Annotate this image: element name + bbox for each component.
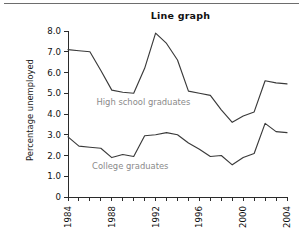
line-graph-figure: Line graph Percentage unemployed 01.02.0…: [0, 0, 303, 243]
x-tick-label: 2004: [282, 206, 292, 228]
y-tick-label: 5.0: [47, 88, 61, 98]
x-tick-label: 1984: [63, 206, 73, 228]
chart-plot: 01.02.03.04.05.06.07.08.0 19841988199219…: [0, 0, 303, 243]
y-tick-label: 8.0: [47, 26, 61, 36]
y-tick-label: 7.0: [47, 47, 61, 57]
y-tick-label: 1.0: [47, 171, 61, 181]
y-tick-label: 6.0: [47, 68, 61, 78]
data-line-high-school-graduates: [68, 33, 287, 122]
y-tick-label: 2.0: [47, 151, 61, 161]
y-tick-label: 4.0: [47, 109, 61, 119]
y-tick-label: 3.0: [47, 130, 61, 140]
series-label-high-school-graduates: High school graduates: [96, 97, 190, 107]
x-tick-label: 1996: [194, 206, 204, 228]
axis-spine: [68, 31, 287, 197]
x-tick-label: 1988: [107, 206, 117, 228]
x-axis-ticks: 198419881992199620002004: [63, 197, 292, 228]
y-axis-ticks: 01.02.03.04.05.06.07.08.0: [47, 26, 68, 202]
x-tick-label: 2000: [238, 206, 248, 228]
data-line-college-graduates: [68, 123, 287, 165]
y-tick-label: 0: [56, 192, 61, 202]
x-tick-label: 1992: [151, 206, 161, 228]
series-label-college-graduates: College graduates: [92, 161, 168, 171]
